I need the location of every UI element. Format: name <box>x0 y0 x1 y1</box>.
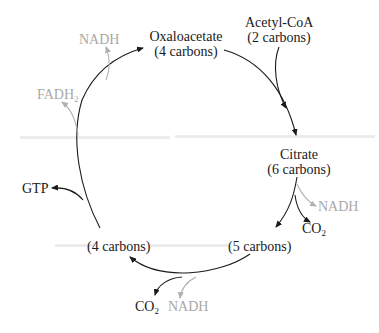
co2-bottom-base: CO <box>135 299 154 314</box>
arrow-gtp <box>52 188 83 200</box>
arc-5c-to-4c <box>130 254 250 273</box>
gtp-label: GTP <box>22 182 48 196</box>
citrate-name: Citrate <box>266 148 332 162</box>
co2-bottom-subscript: 2 <box>154 306 159 316</box>
fadh2-base: FADH <box>37 87 74 102</box>
citrate-label: Citrate (6 carbons) <box>266 148 332 177</box>
acetyl-coa-name: Acetyl-CoA <box>245 16 313 30</box>
acetyl-coa-carbons: (2 carbons) <box>245 31 313 45</box>
acetyl-coa-label: Acetyl-CoA (2 carbons) <box>245 16 313 45</box>
citrate-carbons: (6 carbons) <box>266 163 332 177</box>
arc-citrate-to-5c <box>276 177 297 227</box>
five-carbon-label: (5 carbons) <box>228 240 291 254</box>
oxaloacetate-label: Oxaloacetate (4 carbons) <box>146 30 226 59</box>
nadh-bottom-label: NADH <box>168 300 208 314</box>
arrow-fadh2 <box>62 102 78 135</box>
arrow-nadh-top <box>106 47 109 80</box>
four-carbon-label: (4 carbons) <box>87 240 150 254</box>
arrow-co2-right <box>295 195 310 222</box>
co2-bottom-label: CO2 <box>135 300 159 318</box>
nadh-right-label: NADH <box>318 200 358 214</box>
arrow-nadh-right <box>297 184 316 206</box>
fadh2-subscript: 2 <box>74 94 79 104</box>
co2-right-label: CO2 <box>302 222 326 240</box>
fadh2-label: FADH2 <box>37 88 79 106</box>
oxaloacetate-carbons: (4 carbons) <box>146 45 226 59</box>
arc-oxaloacetate-to-citrate <box>224 50 296 135</box>
arc-4c-to-oxaloacetate <box>77 48 143 228</box>
arrow-acetyl-coa-in <box>275 47 286 108</box>
co2-right-subscript: 2 <box>321 228 326 238</box>
oxaloacetate-name: Oxaloacetate <box>146 30 226 44</box>
nadh-top-label: NADH <box>79 33 119 47</box>
co2-right-base: CO <box>302 221 321 236</box>
arrow-co2-bottom <box>155 277 182 295</box>
arrow-nadh-bottom <box>180 277 196 298</box>
citric-acid-cycle-diagram: NADH Oxaloacetate (4 carbons) Acetyl-CoA… <box>0 0 379 333</box>
